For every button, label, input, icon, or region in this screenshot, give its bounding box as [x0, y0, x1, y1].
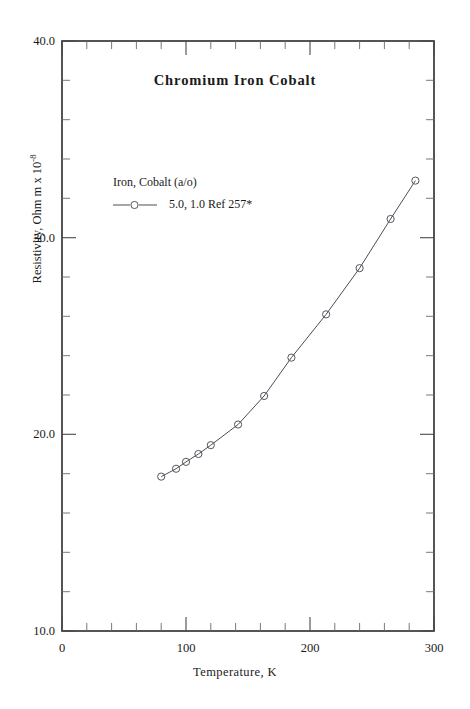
- chart-figure: Chromium Iron Cobalt 40.0 30.0 20.0 10.0…: [0, 0, 470, 709]
- y-axis-title-text: Resistivity, Ohm m x 10-8: [30, 155, 44, 284]
- data-point: [158, 473, 165, 480]
- x-axis-major-ticks: [62, 41, 434, 631]
- chart-title: Chromium Iron Cobalt: [0, 72, 470, 89]
- chart-canvas: [0, 0, 470, 709]
- x-tick-label-300: 300: [414, 641, 454, 656]
- legend-title: Iron, Cobalt (a/o): [113, 175, 252, 190]
- x-tick-label-100: 100: [166, 641, 206, 656]
- y-tick-label-20: 20.0: [9, 427, 55, 442]
- legend-marker-icon: [113, 199, 161, 211]
- legend-entry-label: 5.0, 1.0 Ref 257*: [169, 197, 252, 212]
- y-axis-title: Resistivity, Ohm m x 10-8: [27, 99, 49, 339]
- x-axis-minor-ticks: [87, 41, 409, 631]
- y-axis-minor-ticks: [62, 80, 434, 591]
- legend-entry: 5.0, 1.0 Ref 257*: [113, 197, 252, 212]
- y-tick-label-40: 40.0: [9, 34, 55, 49]
- y-axis-title-main: Resistivity, Ohm m x 10: [30, 162, 44, 284]
- series-markers: [158, 177, 419, 480]
- legend: Iron, Cobalt (a/o) 5.0, 1.0 Ref 257*: [113, 175, 252, 212]
- y-axis-major-ticks: [62, 41, 434, 631]
- x-tick-label-0: 0: [42, 641, 82, 656]
- y-tick-label-10: 10.0: [9, 624, 55, 639]
- x-tick-label-200: 200: [290, 641, 330, 656]
- x-axis-title: Temperature, K: [0, 665, 470, 680]
- y-axis-title-exponent: -8: [28, 155, 38, 162]
- series-line: [161, 181, 415, 477]
- plot-frame: [62, 41, 434, 631]
- data-series-group: [158, 177, 419, 480]
